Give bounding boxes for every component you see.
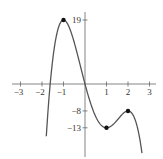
x-tick-label: 3 — [147, 87, 152, 97]
y-tick-label: 19 — [72, 15, 82, 25]
x-tick-label: −3 — [14, 87, 24, 97]
x-tick-label: 2 — [126, 87, 131, 97]
chart: −3−2−112319−8−13 — [0, 0, 163, 159]
extremum-point — [126, 109, 130, 113]
y-tick-label: −13 — [67, 123, 82, 133]
y-tick-label: −8 — [71, 106, 81, 116]
x-tick-label: −2 — [35, 87, 45, 97]
x-tick-label: 1 — [104, 87, 109, 97]
x-tick-label: −1 — [57, 87, 67, 97]
extremum-point — [61, 18, 65, 22]
extremum-point — [104, 126, 108, 130]
axes — [12, 12, 156, 157]
